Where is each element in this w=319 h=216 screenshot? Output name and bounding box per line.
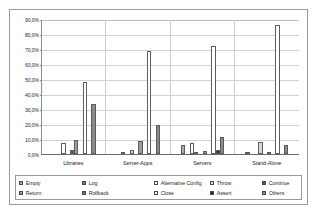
legend-label: Others — [269, 190, 285, 196]
legend-label: Empty — [26, 180, 41, 186]
legend-item[interactable]: Rollback — [82, 188, 154, 198]
bar[interactable] — [61, 143, 65, 154]
bar[interactable] — [181, 145, 185, 154]
bar-group — [235, 20, 299, 154]
bars — [235, 20, 299, 154]
legend-item[interactable]: Empty — [19, 178, 82, 188]
legend-item[interactable]: Assert — [210, 188, 262, 198]
x-axis-category-labels: LibrariesServer-AppsServersStand-Alone — [41, 157, 299, 169]
legend-label: Throw — [217, 180, 231, 186]
legend-swatch-icon — [154, 181, 158, 185]
legend-label: Return — [26, 190, 42, 196]
legend-item[interactable]: Others — [262, 188, 284, 198]
x-tick-label: Servers — [170, 157, 235, 169]
legend-label: Alternative Config — [161, 180, 202, 186]
chart-legend: EmptyLogAlternative ConfigThrowContinue … — [15, 175, 302, 200]
bar[interactable] — [74, 140, 78, 154]
bars — [106, 20, 170, 154]
chart-frame: 90,0%80,0%70,0%60,0%50,0%40,0%30,0%20,0%… — [9, 9, 308, 205]
bar[interactable] — [258, 142, 262, 154]
bar[interactable] — [83, 82, 87, 154]
y-tick-label: 60,0% — [25, 61, 39, 69]
y-tick-label: 0,0% — [28, 151, 39, 159]
legend-label: Assert — [217, 190, 232, 196]
legend-swatch-icon — [154, 191, 158, 195]
legend-swatch-icon — [82, 191, 86, 195]
legend-item[interactable]: Log — [82, 178, 154, 188]
legend-row-1: EmptyLogAlternative ConfigThrowContinue — [19, 178, 298, 188]
legend-label: Rollback — [89, 190, 109, 196]
y-tick-label: 20,0% — [25, 121, 39, 129]
bar[interactable] — [275, 25, 279, 154]
legend-item[interactable]: Throw — [210, 178, 262, 188]
plot-area-wrapper: 90,0%80,0%70,0%60,0%50,0%40,0%30,0%20,0%… — [10, 10, 309, 170]
legend-label: Close — [161, 190, 174, 196]
y-tick-label: 50,0% — [25, 76, 39, 84]
bar[interactable] — [91, 104, 95, 154]
y-tick-label: 40,0% — [25, 91, 39, 99]
y-tick-label: 80,0% — [25, 31, 39, 39]
legend-label: Log — [89, 180, 98, 186]
bar[interactable] — [267, 152, 271, 154]
bars — [42, 20, 106, 154]
bar[interactable] — [121, 152, 125, 154]
legend-row-2: ReturnRollbackCloseAssertOthers — [19, 188, 298, 198]
legend-item[interactable]: Alternative Config — [154, 178, 210, 188]
legend-swatch-icon — [262, 181, 266, 185]
y-tick-label: 70,0% — [25, 46, 39, 54]
bar[interactable] — [211, 46, 215, 154]
bar[interactable] — [147, 51, 151, 154]
legend-swatch-icon — [210, 191, 214, 195]
bar-group — [42, 20, 106, 154]
x-tick-label: Stand-Alone — [235, 157, 300, 169]
bar[interactable] — [156, 125, 160, 154]
bar[interactable] — [284, 145, 288, 154]
legend-swatch-icon — [19, 191, 23, 195]
y-tick-label: 10,0% — [25, 136, 39, 144]
legend-swatch-icon — [210, 181, 214, 185]
bar[interactable] — [245, 152, 249, 154]
bar-group — [171, 20, 235, 154]
plot-area — [41, 20, 299, 155]
legend-item[interactable]: Close — [154, 188, 210, 198]
legend-swatch-icon — [262, 191, 266, 195]
legend-item[interactable]: Continue — [262, 178, 290, 188]
bar-group — [106, 20, 170, 154]
bar-groups — [42, 20, 299, 154]
bar[interactable] — [194, 152, 198, 154]
y-tick-label: 90,0% — [25, 16, 39, 24]
bar[interactable] — [138, 141, 142, 154]
y-tick-label: 30,0% — [25, 106, 39, 114]
y-axis-tick-labels: 90,0%80,0%70,0%60,0%50,0%40,0%30,0%20,0%… — [10, 10, 41, 155]
bar[interactable] — [203, 151, 207, 154]
bar[interactable] — [220, 137, 224, 154]
x-tick-label: Server-Apps — [106, 157, 171, 169]
legend-swatch-icon — [82, 181, 86, 185]
bar[interactable] — [130, 150, 134, 155]
bars — [171, 20, 235, 154]
legend-item[interactable]: Return — [19, 188, 82, 198]
x-tick-label: Libraries — [41, 157, 106, 169]
legend-label: Continue — [269, 180, 290, 186]
legend-swatch-icon — [19, 181, 23, 185]
